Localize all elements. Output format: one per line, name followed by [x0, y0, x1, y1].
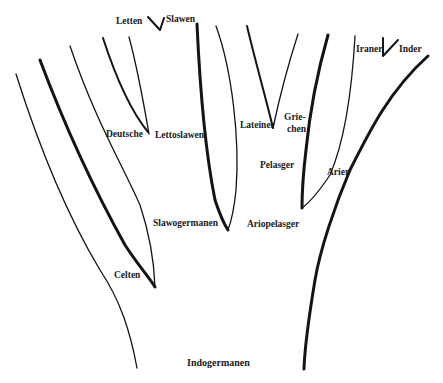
tree-lines — [0, 0, 443, 383]
trunk-left-line — [16, 74, 137, 368]
label-slawogermanen: Slawogermanen — [153, 219, 218, 229]
lateiner-branch-left — [247, 26, 273, 128]
label-lettoslawen: Lettoslawen — [155, 131, 204, 141]
celten-branch-right — [70, 46, 155, 287]
label-lateiner: Lateiner — [240, 121, 275, 131]
label-griechen-1: Grie- — [284, 113, 306, 123]
slawogermanen-branch-right — [216, 26, 237, 230]
letten-slawen-v — [148, 17, 164, 30]
label-iraner: Iraner — [356, 45, 382, 55]
label-celten: Celten — [114, 271, 140, 281]
label-indogermanen: Indogermanen — [187, 358, 250, 368]
language-family-tree: Letten Slawen Deutsche Lettoslawen Latei… — [0, 0, 443, 383]
trunk-right-line — [304, 56, 428, 369]
label-letten: Letten — [116, 17, 142, 27]
iraner-inder-v — [383, 38, 398, 56]
griechen-branch — [302, 35, 328, 208]
label-griechen-2: chen — [287, 125, 306, 135]
label-pelasger: Pelasger — [260, 161, 294, 171]
label-deutsche: Deutsche — [106, 130, 143, 140]
slawogermanen-branch-left — [197, 24, 228, 230]
celten-branch-left — [40, 60, 155, 287]
label-arier: Arier — [327, 168, 349, 178]
label-inder: Inder — [399, 45, 422, 55]
label-ariopelasger: Ariopelasger — [247, 220, 299, 230]
label-slawen: Slawen — [166, 15, 195, 25]
deutsche-branch — [103, 38, 148, 132]
